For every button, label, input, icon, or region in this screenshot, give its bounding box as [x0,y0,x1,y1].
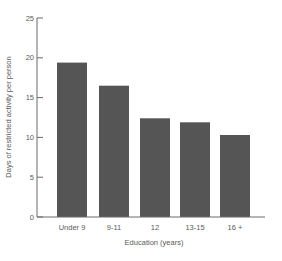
x-tick-label: Under 9 [59,223,86,232]
bars [57,63,250,217]
y-tick-label: 15 [26,93,34,102]
bar-chart: 0510152025 Under 99-111213-1516 + Educat… [0,0,282,261]
x-axis-title: Education (years) [125,238,184,247]
y-tick-label: 0 [30,213,34,222]
x-tick-label: 16 + [228,223,243,232]
bar-4 [220,135,250,217]
y-axis-title: Days of restricted activity per person [4,56,13,177]
bar-2 [140,118,170,217]
y-tick-label: 10 [26,133,34,142]
bar-3 [180,122,210,217]
bar-0 [57,63,87,217]
bar-1 [99,86,129,217]
y-tick-label: 25 [26,14,34,23]
x-tick-label: 9-11 [107,223,121,232]
y-tick-label: 5 [30,173,34,182]
y-tick-label: 20 [26,53,34,62]
x-tick-label: 13-15 [185,223,204,232]
x-tick-labels: Under 99-111213-1516 + [59,223,243,232]
y-ticks: 0510152025 [26,14,43,222]
x-tick-label: 12 [151,223,159,232]
